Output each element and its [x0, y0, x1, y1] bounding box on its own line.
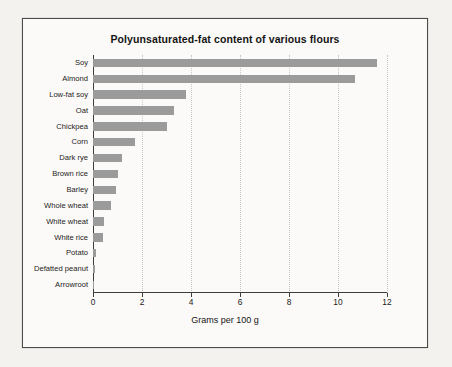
bar-row: Corn	[93, 134, 387, 150]
chart-title: Polyunsaturated-fat content of various f…	[23, 33, 427, 45]
category-label: Defatted peanut	[34, 265, 88, 273]
chart-frame: Polyunsaturated-fat content of various f…	[22, 18, 428, 348]
bar	[93, 106, 174, 115]
bar	[93, 90, 186, 99]
bar	[93, 122, 167, 131]
bar-row: Potato	[93, 245, 387, 261]
x-tick-label: 0	[91, 298, 96, 306]
x-tick-label: 4	[189, 298, 194, 306]
category-label: White rice	[54, 234, 88, 242]
x-tick-label: 12	[382, 298, 391, 306]
bar	[93, 249, 96, 258]
bar-row: Chickpea	[93, 118, 387, 134]
x-tick-label: 10	[333, 298, 342, 306]
x-tick-label: 2	[140, 298, 145, 306]
bar	[93, 217, 104, 226]
category-label: Dark rye	[59, 154, 88, 162]
bar	[93, 75, 355, 84]
category-label: Arrowroot	[55, 281, 88, 289]
bar	[93, 201, 111, 210]
bar-row: White rice	[93, 229, 387, 245]
bar	[93, 186, 116, 195]
plot-area: SoyAlmondLow-fat soyOatChickpeaCornDark …	[93, 55, 387, 293]
x-axis-label: Grams per 100 g	[23, 315, 427, 325]
bar-rows: SoyAlmondLow-fat soyOatChickpeaCornDark …	[93, 55, 387, 293]
bar-row: Defatted peanut	[93, 261, 387, 277]
category-label: Whole wheat	[44, 202, 88, 210]
bar-row: Low-fat soy	[93, 87, 387, 103]
x-axis-ticks: 024681012	[93, 293, 387, 309]
bar	[93, 265, 95, 274]
x-tick-label: 6	[238, 298, 243, 306]
bar	[93, 59, 377, 68]
bar	[93, 233, 103, 242]
bar-row: Almond	[93, 71, 387, 87]
bar	[93, 170, 118, 179]
bar-row: Barley	[93, 182, 387, 198]
bar-row: Brown rice	[93, 166, 387, 182]
category-label: Potato	[66, 249, 88, 257]
bar-row: Soy	[93, 55, 387, 71]
bar-row: Oat	[93, 103, 387, 119]
category-label: Corn	[72, 138, 88, 146]
category-label: Low-fat soy	[49, 91, 88, 99]
category-label: Oat	[76, 107, 88, 115]
bar-row: Arrowroot	[93, 277, 387, 293]
category-label: Brown rice	[52, 170, 88, 178]
bar	[93, 154, 122, 163]
bar-row: White wheat	[93, 214, 387, 230]
bar-row: Dark rye	[93, 150, 387, 166]
category-label: Barley	[66, 186, 88, 194]
bar	[93, 281, 94, 290]
category-label: White wheat	[46, 218, 88, 226]
gridline-12	[387, 55, 389, 293]
bar	[93, 138, 135, 147]
x-tick-label: 8	[287, 298, 292, 306]
category-label: Chickpea	[56, 123, 88, 131]
category-label: Almond	[62, 75, 88, 83]
bar-row: Whole wheat	[93, 198, 387, 214]
category-label: Soy	[75, 59, 88, 67]
